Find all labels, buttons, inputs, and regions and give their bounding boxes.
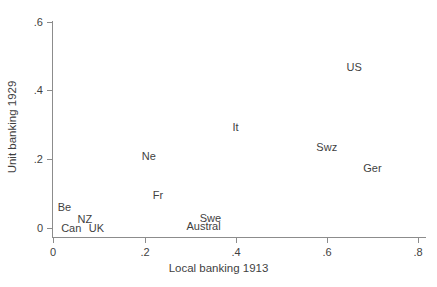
data-point-label: Be [58, 202, 71, 213]
y-axis-tick-label-3: .6 [21, 17, 43, 28]
x-axis-title: Local banking 1913 [0, 262, 437, 274]
data-point-label: It [232, 121, 238, 132]
x-axis-tick-label-3: .6 [312, 247, 342, 258]
y-axis-tick-0 [47, 228, 52, 229]
data-point-label: UK [89, 223, 104, 234]
data-point-label: Ger [363, 162, 381, 173]
x-axis-tick-2 [236, 238, 237, 243]
data-point-label: Swz [316, 142, 337, 153]
data-point-label: Fr [153, 190, 163, 201]
y-axis-tick-3 [47, 22, 52, 23]
x-axis-tick-label-2: .4 [221, 247, 251, 258]
y-axis-tick-1 [47, 159, 52, 160]
y-axis-line [52, 21, 53, 237]
data-point-label: US [346, 61, 361, 72]
x-axis-tick-label-4: .8 [403, 247, 433, 258]
x-axis-tick-3 [327, 238, 328, 243]
y-axis-tick-2 [47, 90, 52, 91]
data-point-label: Can [61, 223, 81, 234]
x-axis-tick-4 [418, 238, 419, 243]
y-axis-tick-label-2: .4 [21, 85, 43, 96]
x-axis-tick-0 [53, 238, 54, 243]
x-axis-tick-label-1: .2 [130, 247, 160, 258]
y-axis-title: Unit banking 1929 [6, 57, 18, 197]
data-point-label: Ne [142, 150, 156, 161]
scatter-plot-figure: 0 .2 .4 .6 0 .2 .4 .6 .8 Local banking 1… [0, 0, 437, 287]
y-axis-tick-label-0: 0 [21, 223, 43, 234]
x-axis-line [52, 237, 426, 238]
x-axis-tick-label-0: 0 [38, 247, 68, 258]
y-axis-tick-label-1: .2 [21, 154, 43, 165]
data-point-label: Austral [186, 221, 220, 232]
x-axis-tick-1 [145, 238, 146, 243]
